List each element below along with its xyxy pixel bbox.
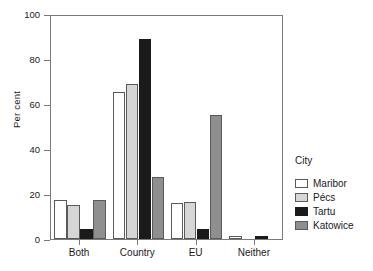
bar-chart-figure: Per cent 020406080100 BothCountryEUNeith…: [0, 0, 373, 271]
legend-item-label: Tartu: [313, 206, 335, 217]
y-axis-tick-label: 20: [0, 190, 40, 200]
bar-maribor-neither: [229, 236, 242, 239]
bar-katowice-country: [152, 177, 165, 239]
legend-item-label: Maribor: [313, 178, 347, 189]
y-axis-tick-label: 60: [0, 100, 40, 110]
bar-maribor-country: [113, 92, 126, 239]
legend-entries: MariborPécsTartuKatowice: [295, 177, 373, 231]
bar-tartu-both: [80, 229, 93, 239]
y-axis-tick-label: 0: [0, 235, 40, 245]
legend-swatch-icon: [295, 179, 308, 188]
x-axis-tick: [196, 240, 197, 245]
legend-item: Katowice: [295, 219, 373, 231]
legend-swatch-icon: [295, 221, 308, 230]
bar-katowice-eu: [210, 115, 223, 239]
bar-maribor-both: [54, 200, 67, 239]
legend-item-label: Pécs: [313, 192, 335, 203]
legend-item: Pécs: [295, 191, 373, 203]
legend-item: Maribor: [295, 177, 373, 189]
bar-pcs-both: [67, 205, 80, 239]
legend-swatch-icon: [295, 207, 308, 216]
x-axis-tick-label: Neither: [214, 247, 294, 258]
bar-maribor-eu: [171, 203, 184, 239]
x-axis-tick: [79, 240, 80, 245]
bar-tartu-neither: [255, 236, 268, 239]
y-axis-tick-label: 80: [0, 55, 40, 65]
bar-pcs-country: [126, 84, 139, 239]
bar-katowice-both: [93, 200, 106, 239]
bars-layer: [51, 16, 282, 239]
plot-area: [50, 15, 283, 240]
y-axis-tick-label: 40: [0, 145, 40, 155]
y-axis-title: Per cent: [11, 70, 22, 150]
bar-tartu-country: [139, 39, 152, 239]
y-axis-tick-label: 100: [0, 10, 40, 20]
legend: City MariborPécsTartuKatowice: [295, 155, 373, 233]
bar-tartu-eu: [197, 229, 210, 239]
x-axis-tick: [137, 240, 138, 245]
legend-swatch-icon: [295, 193, 308, 202]
legend-item: Tartu: [295, 205, 373, 217]
legend-title: City: [295, 155, 373, 167]
legend-item-label: Katowice: [313, 220, 354, 231]
bar-pcs-eu: [184, 202, 197, 239]
x-axis-tick: [254, 240, 255, 245]
